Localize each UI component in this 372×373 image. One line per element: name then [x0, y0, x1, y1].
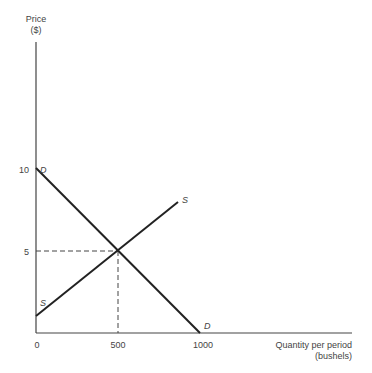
x-tick-500: 500: [110, 340, 125, 350]
demand-label-end: D: [204, 321, 211, 331]
x-tick-1000: 1000: [193, 340, 213, 350]
supply-curve: [36, 202, 178, 316]
y-tick-10: 10: [19, 165, 29, 175]
y-axis-title: Price: [26, 14, 47, 24]
x-axis-unit: (bushels): [315, 351, 352, 361]
x-axis-title: Quantity per period: [275, 340, 352, 350]
y-axis-unit: ($): [31, 25, 42, 35]
y-tick-5: 5: [24, 247, 29, 257]
supply-label-end: S: [182, 195, 188, 205]
supply-label-start: S: [40, 298, 46, 308]
supply-demand-chart: Price ($) 10 5 0 500 1000 Quantity per p…: [0, 0, 372, 373]
x-tick-0: 0: [34, 340, 39, 350]
demand-label-start: D: [40, 165, 47, 175]
